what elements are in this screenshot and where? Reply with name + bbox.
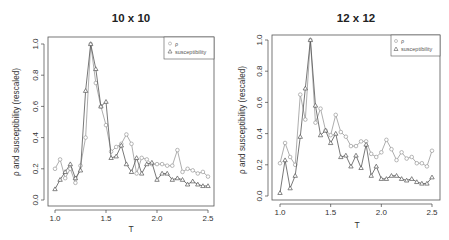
rho-point (344, 135, 348, 139)
x-tick-label: 2.5 (426, 208, 438, 217)
rho-point (181, 170, 185, 174)
susceptibility-point (369, 174, 373, 178)
susceptibility-point (288, 186, 292, 190)
rho-point (160, 162, 164, 166)
rho-line (55, 44, 208, 183)
rho-point (415, 161, 419, 165)
rho-point (369, 152, 373, 156)
rho-point (349, 144, 353, 148)
rho-point (400, 151, 404, 155)
y-tick-label: 0.6 (31, 100, 40, 112)
x-axis-label: T (354, 220, 359, 230)
rho-point (329, 133, 333, 137)
legend: ρ susceptibility (391, 35, 440, 56)
y-tick-label: 0.0 (31, 194, 40, 206)
rho-point (385, 138, 389, 142)
susceptibility-point (293, 174, 297, 178)
susceptibility-point (359, 166, 363, 170)
rho-point (278, 161, 282, 165)
susceptibility-point (298, 135, 302, 139)
rho-point (140, 156, 144, 160)
rho-point (74, 181, 78, 185)
rho-point (334, 113, 338, 117)
susceptibility-point (415, 180, 419, 184)
y-tick-label: 0.2 (31, 163, 40, 175)
rho-point (171, 164, 175, 168)
rho-point (201, 170, 205, 174)
x-tick-label: 1.0 (274, 208, 286, 217)
susceptibility-point (175, 176, 179, 180)
rho-point (196, 172, 200, 176)
y-tick-label: 0.2 (255, 159, 264, 171)
legend-rho-label: ρ (175, 41, 178, 47)
rho-point (84, 136, 88, 140)
rho-point (298, 93, 302, 97)
rho-point (53, 167, 57, 171)
y-tick-label: 0.0 (255, 190, 264, 202)
susceptibility-point (53, 187, 57, 191)
x-axis-label: T (128, 224, 133, 234)
y-tick-label: 0.6 (255, 96, 264, 108)
rho-point (165, 164, 169, 168)
x-axis: 1.01.52.02.5 (274, 204, 438, 217)
y-tick-label: 1.0 (255, 34, 264, 46)
rho-point (186, 167, 190, 171)
susceptibility-point (83, 89, 87, 93)
rho-point (374, 155, 378, 159)
susceptibility-point (399, 177, 403, 181)
susceptibility-point (303, 86, 307, 90)
legend-susceptibility-label: susceptibility (175, 49, 206, 55)
susceptibility-point (140, 171, 144, 175)
rho-point (283, 141, 287, 145)
chart-title: 12 x 12 (337, 12, 375, 24)
susceptibility-point (344, 153, 348, 157)
rho-point (339, 130, 343, 134)
x-tick-label: 1.0 (49, 214, 61, 223)
susceptibility-line (55, 44, 208, 189)
y-axis: 0.00.20.40.60.81.0 (255, 34, 268, 202)
rho-point (206, 175, 210, 179)
x-tick-label: 1.5 (100, 214, 112, 223)
susceptibility-point (283, 158, 287, 162)
x-tick-label: 2.5 (202, 214, 214, 223)
rho-point (155, 162, 159, 166)
rho-point (130, 142, 134, 146)
y-tick-label: 0.4 (31, 131, 40, 143)
series-lines (278, 38, 434, 195)
rho-point (430, 149, 434, 153)
rho-point (114, 145, 118, 149)
susceptibility-point (191, 179, 195, 183)
rho-point (109, 150, 113, 154)
rho-point (395, 158, 399, 162)
chart-panel-10x10: 10 x 10 ρ and susceptibility (rescaled) … (12, 12, 214, 234)
rho-point (420, 161, 424, 165)
rho-point (410, 155, 414, 159)
susceptibility-point (124, 162, 128, 166)
rho-point (94, 81, 98, 85)
susceptibility-point (114, 154, 118, 158)
y-tick-label: 0.4 (255, 127, 264, 139)
y-tick-label: 0.8 (31, 69, 40, 81)
rho-point (125, 133, 129, 137)
rho-point (405, 157, 409, 161)
rho-point (176, 148, 180, 152)
rho-point (63, 176, 67, 180)
chart-title: 10 x 10 (112, 12, 150, 24)
rho-point (354, 144, 358, 148)
legend-susceptibility-label: susceptibility (401, 46, 432, 52)
plot-frame (272, 35, 440, 200)
rho-point (425, 165, 429, 169)
susceptibility-point (354, 153, 358, 157)
susceptibility-point (374, 164, 378, 168)
rho-point (380, 151, 384, 155)
susceptibility-line (280, 40, 432, 193)
series-lines (53, 42, 210, 191)
chart-panel-12x12: 12 x 12 ρ and susceptibility (rescaled) … (238, 12, 440, 230)
susceptibility-point (278, 191, 282, 195)
susceptibility-point (410, 177, 414, 181)
plot-frame (48, 37, 214, 206)
rho-point (288, 155, 292, 159)
susceptibility-point (430, 175, 434, 179)
legend-rho-label: ρ (401, 38, 404, 44)
susceptibility-point (196, 182, 200, 186)
